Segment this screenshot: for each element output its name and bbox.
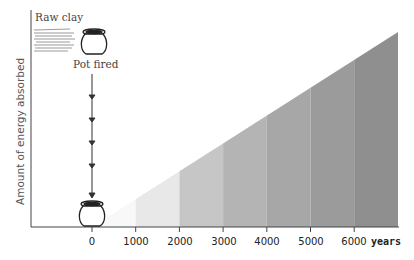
- x-tick-label: 3000: [211, 236, 236, 247]
- x-unit-label: years: [371, 236, 401, 247]
- x-tick-label: 5000: [298, 236, 323, 247]
- raw-clay-icon: [34, 29, 75, 51]
- fired-pot-icon: [79, 201, 104, 226]
- pot-fired-label: Pot fired: [73, 58, 118, 70]
- energy-diagram: [0, 0, 414, 260]
- energy-area: [92, 20, 398, 230]
- x-tick-label: 0: [89, 236, 95, 247]
- x-tick-label: 6000: [341, 236, 366, 247]
- raw-clay-label: Raw clay: [35, 11, 83, 23]
- x-tick-label: 1000: [123, 236, 148, 247]
- pot-icon: [81, 29, 106, 54]
- y-axis-label: Amount of energy absorbed: [14, 58, 26, 205]
- x-ticks: [92, 227, 354, 232]
- x-tick-label: 4000: [254, 236, 279, 247]
- x-tick-label: 2000: [167, 236, 192, 247]
- arrow-down-icon: [89, 74, 95, 198]
